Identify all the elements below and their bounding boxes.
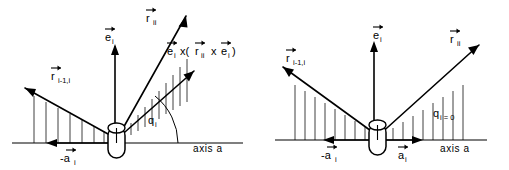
- cross-part-4-subscript: i: [228, 51, 230, 60]
- panel-zero-angle-configuration: r ii e i r i-1,i -a i a i: [255, 0, 509, 170]
- cross-part-0-symbol: e: [167, 45, 173, 57]
- label-r-ii-subscript: ii: [457, 39, 461, 48]
- label-r-i-minus-1-i: r i-1,i: [51, 66, 70, 85]
- e-i-vector-arrow: [111, 44, 119, 135]
- revolute-joint-symbol: [369, 120, 386, 155]
- label-minus-a-i: -a i: [321, 145, 337, 164]
- cross-part-0-subscript: i: [174, 51, 176, 60]
- label-minus-a-i: -a i: [60, 148, 76, 167]
- hatch-group-left-vector: [34, 96, 104, 143]
- label-minus-a-i-symbol: -a: [321, 149, 332, 161]
- r-ii-vector-arrow: [378, 45, 479, 136]
- axis-label-a: axis a: [193, 143, 223, 154]
- angle-label-q-i-subscript: i: [155, 120, 157, 129]
- cross-product-label: e i x( r ii x e i ): [167, 41, 236, 60]
- angle-label-q-i-symbol: q: [148, 114, 154, 126]
- label-e-i: e i: [373, 25, 383, 44]
- axis-label-a: axis a: [440, 143, 470, 154]
- label-e-i-symbol: e: [373, 29, 379, 41]
- cross-part-5-symbol: ): [232, 45, 236, 57]
- label-plus-a-i-subscript: i: [405, 155, 407, 164]
- label-plus-a-i: a i: [398, 145, 408, 164]
- label-r-i-minus-1-i-symbol: r: [286, 52, 290, 64]
- label-r-ii-symbol: r: [146, 12, 150, 24]
- label-r-ii-subscript: ii: [153, 18, 157, 27]
- cross-part-4-symbol: e: [221, 45, 227, 57]
- hatch-group-left-vector: [295, 85, 365, 140]
- label-minus-a-i-subscript: i: [74, 158, 76, 167]
- label-r-i-minus-1-i: r i-1,i: [286, 48, 305, 67]
- label-r-ii: r ii: [450, 29, 461, 48]
- cross-part-1-symbol: x(: [177, 45, 190, 57]
- label-minus-a-i-symbol: -a: [60, 152, 71, 164]
- label-r-i-minus-1-i-subscript: i-1,i: [293, 58, 305, 67]
- cross-part-2-subscript: ii: [201, 51, 205, 60]
- label-r-i-minus-1-i-subscript: i-1,i: [58, 76, 70, 85]
- label-r-i-minus-1-i-symbol: r: [51, 70, 55, 82]
- mechanics-diagram: r ii e i r i-1,i -a i e i: [0, 0, 509, 170]
- label-e-i-subscript: i: [112, 37, 114, 46]
- label-plus-a-i-symbol: a: [398, 149, 405, 161]
- r-i-minus-1-i-vector-arrow: [25, 88, 117, 139]
- revolute-joint-symbol: [108, 123, 125, 158]
- angle-label-q-subscript: i = 0: [440, 113, 454, 122]
- label-r-ii: r ii: [146, 8, 157, 27]
- cross-part-3-symbol: x: [208, 45, 220, 57]
- label-e-i: e i: [105, 27, 115, 46]
- r-i-minus-1-i-vector-arrow: [283, 67, 378, 136]
- label-r-ii-symbol: r: [450, 33, 454, 45]
- label-e-i-symbol: e: [105, 31, 111, 43]
- minus-a-i-vector-arrow: [323, 136, 371, 144]
- label-e-i-subscript: i: [380, 35, 382, 44]
- e-i-vector-arrow: [370, 41, 378, 132]
- cross-part-2-symbol: r: [195, 45, 199, 57]
- angle-label-q-i: q i: [148, 114, 157, 129]
- minus-a-i-vector-arrow: [46, 139, 113, 147]
- angle-label-q-symbol: q: [433, 107, 439, 119]
- panel-general-angle-configuration: r ii e i r i-1,i -a i e i: [0, 0, 255, 170]
- label-minus-a-i-subscript: i: [335, 155, 337, 164]
- plus-a-i-vector-arrow: [381, 136, 423, 144]
- angle-label-q-i-zero: q i = 0: [433, 107, 454, 122]
